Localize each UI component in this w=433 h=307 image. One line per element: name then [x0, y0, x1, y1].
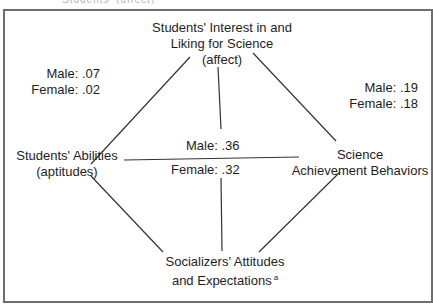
footnote-marker: a [274, 273, 278, 282]
node-socializers-line2-text: and Expectations [172, 273, 272, 288]
corr-interest-achievement-male: Male: .19 [330, 80, 418, 96]
corr-abilities-interest: Male: .07 Female: .02 [8, 66, 100, 98]
node-interest-line1: Students' Interest in and [152, 20, 292, 36]
node-interest-line3: (affect) [152, 52, 292, 68]
node-interest: Students' Interest in and Liking for Sci… [152, 20, 292, 68]
node-achievement: Science Achievement Behaviors [290, 147, 430, 179]
node-achievement-line1: Science [290, 147, 430, 163]
corr-interest-achievement: Male: .19 Female: .18 [330, 80, 418, 112]
node-interest-line2: Liking for Science [152, 36, 292, 52]
corr-interest-achievement-female: Female: .18 [330, 96, 418, 112]
edge-abilities-socializers [91, 176, 163, 252]
corr-abilities-achievement-female: Female: .32 [171, 162, 240, 178]
edge-interest-socializers [218, 67, 221, 129]
node-socializers-line2: and Expectationsa [155, 270, 295, 289]
node-achievement-line2: Achievement Behaviors [290, 163, 430, 179]
node-socializers-line1: Socializers' Attitudes [155, 254, 295, 270]
corr-abilities-interest-male: Male: .07 [8, 66, 100, 82]
edge-center-socializers [221, 178, 222, 251]
edge-achievement-socializers [259, 172, 340, 252]
corr-abilities-achievement-male: Male: .36 [186, 138, 239, 154]
node-socializers: Socializers' Attitudes and Expectationsa [155, 254, 295, 289]
edge-abilities-achievement [124, 157, 299, 160]
corr-abilities-interest-female: Female: .02 [8, 82, 100, 98]
node-abilities: Students' Abilities (aptitudes) [12, 148, 122, 180]
node-abilities-line2: (aptitudes) [12, 164, 122, 180]
node-abilities-line1: Students' Abilities [12, 148, 122, 164]
